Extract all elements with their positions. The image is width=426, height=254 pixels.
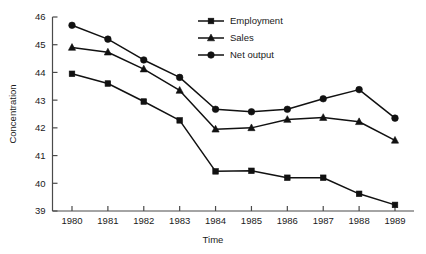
data-point-circle-marker <box>176 74 183 81</box>
data-point-square-marker <box>105 81 111 87</box>
x-axis-tick-label: 1985 <box>241 215 262 226</box>
data-point-square-marker <box>285 175 291 181</box>
y-axis-tick-label: 44 <box>35 67 46 78</box>
data-point-square-marker <box>141 99 147 105</box>
data-point-circle-marker <box>212 106 219 113</box>
x-axis-tick-label: 1989 <box>384 215 405 226</box>
data-point-square-marker <box>320 175 326 181</box>
data-point-circle-marker <box>284 106 291 113</box>
data-point-square-marker <box>392 202 398 208</box>
y-axis-tick-label: 39 <box>35 205 46 216</box>
data-point-circle-marker <box>69 22 76 29</box>
chart-container: 4645444342414039 Concentration 198019811… <box>0 0 426 254</box>
y-axis-title: Concentration <box>7 84 18 143</box>
y-axis-tick-label: 43 <box>35 95 46 106</box>
y-axis-tick-label: 40 <box>35 178 46 189</box>
data-point-circle-marker <box>320 95 327 102</box>
x-axis-tick-label: 1986 <box>277 215 298 226</box>
y-axis-tick-label: 42 <box>35 122 46 133</box>
y-axis-tick-label: 46 <box>35 11 46 22</box>
legend-label: Sales <box>230 32 254 43</box>
line-chart: 4645444342414039 Concentration 198019811… <box>0 0 426 254</box>
data-point-circle-marker <box>208 52 215 59</box>
x-axis-tick-label: 1988 <box>349 215 370 226</box>
x-axis-tick-label: 1980 <box>61 215 82 226</box>
data-point-square-marker <box>208 18 214 24</box>
data-point-square-marker <box>213 169 219 175</box>
data-point-square-marker <box>177 118 183 124</box>
x-axis-tick-label: 1982 <box>133 215 154 226</box>
data-point-circle-marker <box>105 36 112 43</box>
y-axis-tick-label: 41 <box>35 150 46 161</box>
data-point-circle-marker <box>392 115 399 122</box>
data-point-square-marker <box>356 191 362 197</box>
data-point-circle-marker <box>356 86 363 93</box>
data-point-circle-marker <box>248 108 255 115</box>
data-point-circle-marker <box>140 57 147 64</box>
x-axis-title: Time <box>203 234 224 245</box>
legend-label: Net output <box>230 49 274 60</box>
legend-label: Employment <box>230 15 283 26</box>
x-axis-tick-label: 1981 <box>97 215 118 226</box>
y-axis-tick-label: 45 <box>35 39 46 50</box>
x-axis-tick-label: 1983 <box>169 215 190 226</box>
x-axis-tick-label: 1984 <box>205 215 226 226</box>
data-point-square-marker <box>249 168 255 174</box>
x-axis-tick-label: 1987 <box>313 215 334 226</box>
data-point-square-marker <box>69 71 75 77</box>
